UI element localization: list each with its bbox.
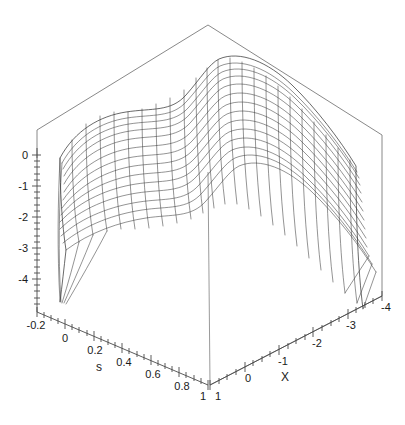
surface-plot-figure: 0 -1 -2 -3 -4 xyxy=(0,0,405,425)
s-tick-label-5: 0.8 xyxy=(174,380,189,392)
x-tick-label-0: 1 xyxy=(215,390,221,402)
s-axis-title: s xyxy=(96,360,102,374)
s-tick-label-3: 0.4 xyxy=(116,356,131,368)
x-tick-label-1: 0 xyxy=(245,372,251,384)
s-tick-label-0: -0.2 xyxy=(27,319,46,331)
x-axis-title: X xyxy=(281,370,289,384)
s-tick-label-4: 0.6 xyxy=(145,368,160,380)
z-tick-label-4: -4 xyxy=(18,273,28,285)
x-tick-label-4: -3 xyxy=(346,319,356,331)
s-axis-group: -0.2 0 0.2 0.4 0.6 0.8 1 s xyxy=(27,307,208,402)
z-tick-label-2: -2 xyxy=(18,211,28,223)
s-tick-label-2: 0.2 xyxy=(87,344,102,356)
plot-canvas: 0 -1 -2 -3 -4 xyxy=(0,0,405,425)
surface-wireframe xyxy=(58,56,376,309)
z-tick-label-0: 0 xyxy=(22,149,28,161)
x-tick-label-5: -4 xyxy=(381,301,391,313)
z-tick-label-3: -3 xyxy=(18,242,28,254)
x-minor-ticks xyxy=(219,298,373,384)
box-front-vertical xyxy=(208,172,210,385)
box-top-edges xyxy=(37,25,382,135)
s-minor-ticks xyxy=(44,312,201,384)
s-tick-label-1: 0 xyxy=(62,332,68,344)
x-tick-label-2: -1 xyxy=(278,355,288,367)
bounding-box xyxy=(37,25,382,385)
s-axis-line xyxy=(37,312,208,385)
x-tick-label-3: -2 xyxy=(312,337,322,349)
z-tick-label-1: -1 xyxy=(18,180,28,192)
s-tick-label-6: 1 xyxy=(200,390,206,402)
z-axis-group: 0 -1 -2 -3 -4 xyxy=(18,148,41,312)
